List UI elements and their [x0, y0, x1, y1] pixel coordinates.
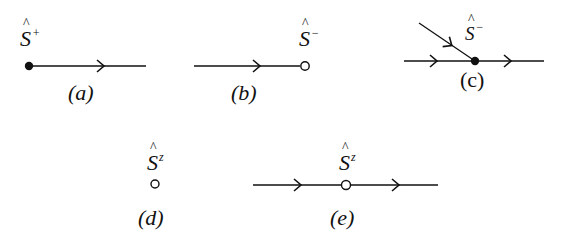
panel-a-caption: (a) [68, 82, 94, 104]
panel-a-operator-symbol: S [20, 28, 31, 50]
panel-e-operator-label: Sz [339, 152, 356, 174]
panel-d [151, 180, 159, 188]
panel-d-operator-superscript: z [159, 150, 164, 164]
panel-b-open-vertex [301, 62, 309, 70]
panel-a-filled-vertex [25, 62, 33, 70]
panel-c-operator-superscript: − [476, 20, 484, 34]
panel-b-operator-superscript: − [311, 26, 319, 40]
panel-a [25, 60, 146, 72]
panel-d-operator-symbol: S [147, 152, 158, 174]
panel-e-operator-superscript: z [351, 150, 356, 164]
panel-b-caption: (b) [231, 82, 257, 104]
panel-b-operator-label: S− [299, 28, 319, 50]
panel-c-operator-label: S− [465, 24, 484, 43]
panel-e-open-vertex [342, 181, 351, 190]
panel-c-operator-symbol: S [465, 24, 475, 43]
panel-e-operator-symbol: S [339, 152, 350, 174]
panel-d-open-vertex [151, 180, 159, 188]
panel-c-filled-vertex [471, 57, 479, 65]
panel-e-caption: (e) [330, 207, 354, 229]
panel-d-caption: (d) [138, 207, 164, 229]
panel-a-operator-label: S+ [20, 28, 40, 50]
panel-b-operator-symbol: S [299, 28, 310, 50]
panel-c-caption: (c) [460, 69, 484, 91]
panel-a-operator-superscript: + [32, 26, 40, 40]
panel-e [253, 179, 438, 191]
panel-b [194, 60, 309, 72]
panel-d-operator-label: Sz [147, 152, 164, 174]
